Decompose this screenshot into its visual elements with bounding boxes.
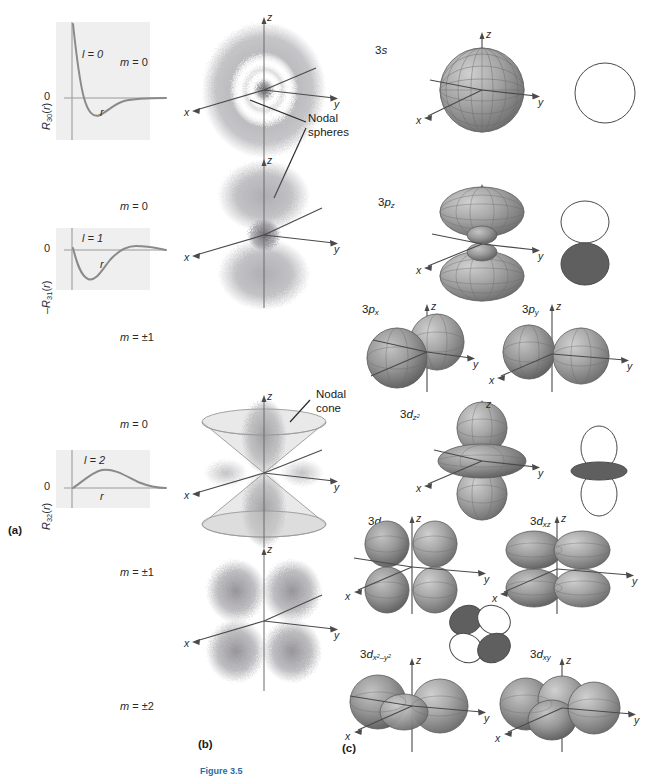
radial-plot-3p-l-label: l = 1 (82, 232, 103, 245)
svg-text:y: y (333, 243, 340, 255)
svg-text:x: x (494, 732, 501, 744)
svg-text:x: x (415, 482, 422, 494)
svg-text:z: z (485, 28, 492, 40)
orbital-label-type: s (381, 44, 387, 56)
svg-text:x: x (488, 374, 495, 386)
svg-text:x: x (415, 114, 422, 126)
svg-text:x: x (415, 264, 422, 276)
svg-text:y: y (626, 360, 633, 372)
radial-plot-3s-l-label: l = 0 (82, 48, 103, 61)
svg-text:y: y (333, 629, 340, 641)
cloud-3p-m0: z y x (182, 156, 362, 316)
svg-text:y: y (472, 358, 479, 370)
cloud-m-label-3: m = 0 (120, 418, 148, 430)
orbital-surface-3py: z y x (485, 300, 645, 400)
panel-b-letter: (b) (198, 738, 213, 750)
orbital-surface-3px: z y (325, 300, 480, 400)
radial-plot-3p-zero: 0 (44, 242, 50, 254)
svg-text:y: y (631, 575, 638, 587)
svg-text:x: x (183, 251, 190, 263)
svg-text:z: z (266, 11, 273, 23)
svg-text:z: z (565, 654, 572, 666)
radial-plot-3d-xlabel: r (100, 490, 104, 502)
svg-text:y: y (483, 573, 490, 585)
svg-text:y: y (483, 712, 490, 724)
svg-text:z: z (266, 543, 273, 555)
sign-diagram-3pz (555, 196, 615, 291)
svg-text:x: x (344, 590, 351, 602)
svg-text:y: y (537, 96, 544, 108)
ylabel-prefix: – (40, 308, 52, 314)
svg-text:y: y (333, 481, 340, 493)
svg-text:x: x (183, 489, 190, 501)
orbital-surface-3dxy: z y x (490, 650, 650, 760)
orbital-surface-3dxz: z y x (490, 512, 650, 622)
radial-plot-3d-zero: 0 (44, 480, 50, 492)
panel-c-letter: (c) (342, 742, 356, 754)
radial-plot-3s-zero: 0 (44, 90, 50, 102)
svg-text:y: y (537, 250, 544, 262)
figure-caption-text: Figure 3.5 (200, 766, 243, 776)
svg-text:x: x (344, 730, 351, 742)
orbital-surface-3pz: y x (390, 182, 575, 307)
svg-text:x: x (183, 637, 190, 649)
svg-text:z: z (415, 512, 422, 524)
panel-c-orbitals: 3s z y x 3pz (340, 0, 655, 774)
svg-text:z: z (485, 398, 492, 410)
orbital-surface-3dx2y2: z y x (340, 650, 500, 760)
svg-text:y: y (537, 467, 544, 479)
radial-plot-3p-xlabel: r (100, 258, 104, 270)
cloud-m-label-2: m = ±1 (120, 331, 154, 343)
cloud-3d-m-pm1: z y x (182, 545, 362, 695)
figure-caption: Figure 3.5 (200, 766, 243, 776)
svg-text:x: x (183, 106, 190, 118)
svg-text:z: z (555, 300, 562, 312)
svg-text:z: z (415, 654, 422, 666)
svg-text:y: y (633, 714, 640, 726)
svg-text:z: z (560, 512, 567, 524)
cloud-m-label-0: m = 0 (120, 56, 148, 68)
radial-plot-3d-l-label: l = 2 (84, 454, 105, 467)
orbital-surface-3s: z y x (390, 28, 575, 163)
orbital-surface-3dz2: z y x (390, 398, 575, 523)
panel-a-letter: (a) (8, 524, 22, 536)
svg-text:z: z (266, 390, 273, 402)
cloud-m-label-1: m = 0 (120, 200, 148, 212)
svg-text:z: z (430, 300, 437, 312)
cloud-m-label-5: m = ±2 (120, 700, 154, 712)
cloud-m-label-4: m = ±1 (120, 566, 154, 578)
svg-text:z: z (266, 154, 273, 166)
sign-diagram-3s (570, 58, 640, 128)
sign-diagram-3dz2 (568, 424, 630, 519)
orbital-label-3s: 3s (375, 44, 387, 56)
radial-plot-3s-xlabel: r (100, 106, 104, 118)
svg-text:x: x (491, 592, 498, 604)
